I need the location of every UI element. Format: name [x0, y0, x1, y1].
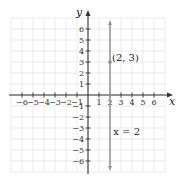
- y-tick-label: −1: [72, 102, 84, 111]
- y-tick-label: 6: [79, 25, 84, 34]
- y-tick-label: 3: [79, 58, 84, 67]
- line-arrow-up-icon: [108, 20, 112, 25]
- y-tick-label: −6: [72, 157, 84, 166]
- y-tick-label: 4: [79, 47, 84, 56]
- y-tick-label: −2: [72, 113, 84, 122]
- y-tick-label: −3: [72, 124, 84, 133]
- equation-label: x = 2: [113, 126, 140, 137]
- y-axis-arrow-icon: [86, 10, 91, 16]
- line-arrow-down-icon: [108, 166, 112, 171]
- coordinate-plane: −6−5−4−3−2−1123456−6−5−4−3−2−1123456 xy(…: [0, 0, 180, 182]
- x-tick-label: 5: [140, 98, 145, 107]
- y-tick-label: −4: [72, 135, 84, 144]
- y-axis-label: y: [75, 6, 83, 19]
- x-tick-label: 1: [96, 98, 101, 107]
- x-tick-label: 6: [151, 98, 156, 107]
- y-tick-label: 2: [79, 69, 84, 78]
- y-tick-label: −5: [72, 146, 84, 155]
- y-tick-label: 1: [79, 80, 84, 89]
- y-tick-label: 5: [79, 36, 84, 45]
- point-label: (2, 3): [112, 52, 139, 63]
- x-axis-label: x: [169, 95, 176, 108]
- x-tick-label: 4: [129, 98, 134, 107]
- axes: [9, 10, 173, 174]
- x-tick-label: 3: [118, 98, 123, 107]
